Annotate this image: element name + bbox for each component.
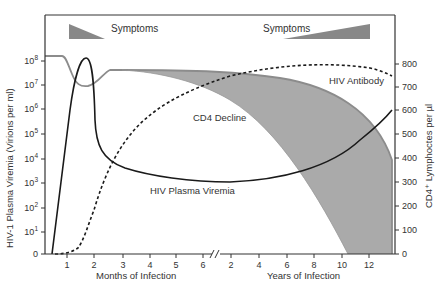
symptoms-right-label: Symptoms: [263, 23, 310, 34]
bottom-tick-label: 12: [364, 260, 374, 270]
symptoms-left-triangle: [69, 24, 105, 39]
bottom-tick-label: 2: [228, 260, 233, 270]
left-tick-label: 0: [33, 249, 38, 259]
x-axis-title-months: Months of Infection: [96, 270, 176, 281]
bottom-tick-label: 6: [284, 260, 289, 270]
right-tick-label: 600: [402, 105, 417, 115]
left-tick-label: 102: [24, 201, 38, 213]
y-axis-title-right: CD4⁺ Lymphoctes per µl: [423, 104, 434, 208]
left-tick-label: 106: [24, 102, 38, 114]
bottom-tick-label: 10: [337, 260, 347, 270]
right-tick-label: 200: [402, 201, 417, 211]
bottom-tick-label: 8: [311, 260, 316, 270]
right-tick-label: 100: [402, 225, 417, 235]
bottom-tick-label: 4: [147, 260, 152, 270]
right-tick-label: 0: [402, 249, 407, 259]
cd4-decline-label: CD4 Decline: [193, 112, 246, 123]
hiv-viremia-label: HIV Plasma Viremia: [150, 185, 236, 196]
left-tick-label: 103: [24, 176, 38, 188]
bottom-tick-label: 5: [173, 260, 178, 270]
left-tick-label: 105: [24, 127, 38, 139]
right-tick-label: 400: [402, 153, 417, 163]
left-tick-label: 107: [24, 78, 38, 90]
right-tick-label: 800: [402, 59, 417, 69]
left-axis-ticks: 1081071061051041031021010: [24, 54, 45, 259]
left-tick-label: 101: [24, 225, 38, 237]
y-axis-title-left: HIV-1 Plasma Viremia (Virions per ml): [4, 88, 15, 248]
right-tick-label: 500: [402, 129, 417, 139]
cd4-decline-band: [122, 70, 392, 254]
right-tick-label: 700: [402, 82, 417, 92]
bottom-tick-label: 4: [256, 260, 261, 270]
chart-canvas: 1081071061051041031021010 80070060050040…: [0, 0, 441, 293]
hiv-antibody-label: HIV Antibody: [329, 75, 384, 86]
bottom-tick-label: 2: [91, 260, 96, 270]
x-axis-title-years: Years of Infection: [267, 270, 340, 281]
bottom-tick-label: 3: [120, 260, 125, 270]
left-tick-label: 104: [24, 152, 38, 164]
right-axis-ticks: 8007006005004003002001000: [395, 59, 417, 259]
symptoms-left-label: Symptoms: [111, 23, 158, 34]
bottom-tick-label: 1: [64, 260, 69, 270]
bottom-tick-label: 6: [200, 260, 205, 270]
left-tick-label: 108: [24, 54, 38, 66]
bottom-axis-ticks: 12345624681012: [64, 254, 374, 270]
right-tick-label: 300: [402, 177, 417, 187]
